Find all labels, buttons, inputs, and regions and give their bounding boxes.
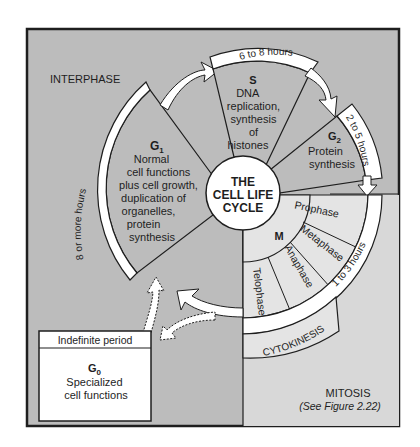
title-line-2: CELL LIFE [213, 188, 273, 202]
m-name: M [274, 230, 283, 242]
title-line-3: CYCLE [223, 201, 264, 215]
mitosis-label: MITOSIS [325, 387, 370, 399]
mitosis-reference: (See Figure 2.22) [299, 400, 381, 412]
cell-life-cycle-diagram: THE CELL LIFE CYCLE INTERPHASE MITOSIS (… [0, 0, 420, 447]
interphase-label: INTERPHASE [50, 73, 120, 85]
title-line-1: THE [231, 175, 255, 189]
s-name: S [249, 74, 256, 86]
g0-header: Indefinite period [58, 334, 133, 346]
g0-description: Specialized cell functions [64, 376, 128, 401]
